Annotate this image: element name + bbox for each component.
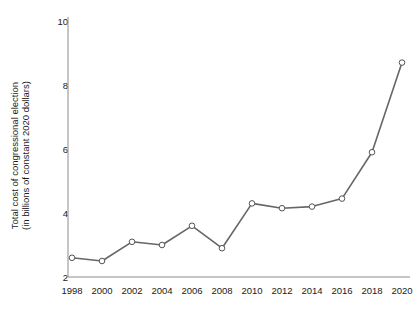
data-point-marker xyxy=(399,60,405,66)
data-point-marker xyxy=(189,223,195,229)
data-point-marker xyxy=(219,245,225,251)
data-point-marker xyxy=(159,242,165,248)
series-line xyxy=(72,63,402,261)
data-point-marker xyxy=(369,149,375,155)
data-point-marker xyxy=(309,204,315,210)
plot-area xyxy=(0,0,418,311)
chart-container: Total cost of congressional election (in… xyxy=(0,0,418,311)
data-point-marker xyxy=(279,205,285,211)
data-point-marker xyxy=(249,201,255,207)
data-point-marker xyxy=(129,239,135,245)
data-point-marker xyxy=(99,258,105,264)
data-point-markers xyxy=(69,60,405,264)
data-point-marker xyxy=(69,255,75,261)
data-series-line xyxy=(72,63,402,261)
data-point-marker xyxy=(339,196,345,202)
